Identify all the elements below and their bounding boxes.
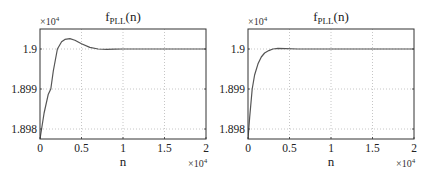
x-multiplier-exp: 4 [204, 157, 208, 165]
x-tick-label: 2 [203, 142, 209, 154]
y-tick-label: 1.899 [11, 83, 37, 95]
x-multiplier: ×104 [188, 157, 208, 169]
y-multiplier: ×104 [248, 15, 268, 27]
y-multiplier-base: ×10 [248, 16, 264, 27]
chart-title: fPLL(n) [313, 9, 349, 26]
y-tick-label: 1.898 [11, 123, 37, 135]
y-multiplier-exp: 4 [56, 15, 60, 23]
chart-title: fPLL(n) [105, 9, 141, 26]
y-multiplier-exp: 4 [264, 15, 268, 23]
y-tick-label: 1.9 [231, 43, 246, 55]
x-tick-label: 1 [120, 142, 126, 154]
x-axis-label: n [328, 154, 335, 169]
x-tick-label: 2 [411, 142, 417, 154]
x-tick-label: 0.5 [282, 142, 297, 154]
chart-2: 00.511.521.8981.8991.9×104×104nfPLL(n) [219, 9, 417, 169]
x-tick-label: 0 [245, 142, 251, 154]
title-subscript: PLL [318, 16, 334, 26]
title-tail: (n) [334, 9, 349, 24]
y-tick-label: 1.9 [23, 43, 38, 55]
x-tick-label: 0 [37, 142, 43, 154]
title-subscript: PLL [110, 16, 126, 26]
chart-1: 00.511.521.8981.8991.9×104×104nfPLL(n) [11, 9, 209, 169]
x-tick-label: 1.5 [365, 142, 380, 154]
x-axis-label: n [120, 154, 127, 169]
y-tick-label: 1.899 [219, 83, 245, 95]
x-multiplier: ×104 [396, 157, 416, 169]
x-multiplier-base: ×10 [188, 158, 204, 169]
x-tick-label: 1.5 [157, 142, 172, 154]
figure: 00.511.521.8981.8991.9×104×104nfPLL(n)00… [0, 0, 432, 178]
y-multiplier-base: ×10 [40, 16, 56, 27]
y-tick-label: 1.898 [219, 123, 245, 135]
x-multiplier-exp: 4 [412, 157, 416, 165]
x-multiplier-base: ×10 [396, 158, 412, 169]
y-multiplier: ×104 [40, 15, 60, 27]
x-tick-label: 1 [328, 142, 334, 154]
x-tick-label: 0.5 [74, 142, 89, 154]
title-tail: (n) [126, 9, 141, 24]
